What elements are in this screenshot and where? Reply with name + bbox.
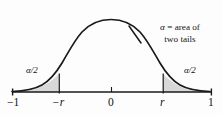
annotation-leader-line <box>129 26 141 43</box>
right-tail-label: α/2 <box>184 66 196 75</box>
axis-label-minus-one: −1 <box>7 97 19 109</box>
left-tail-label: α/2 <box>26 66 38 75</box>
area-annotation-line-2: two tails <box>142 34 218 46</box>
area-annotation-line-1: α = area of <box>142 22 218 34</box>
axis-label-zero: 0 <box>108 97 114 109</box>
axis-label-one: 1 <box>208 97 214 109</box>
area-annotation-line-1-rest: = area of <box>165 22 200 32</box>
axis-label-minus-r: −r <box>52 97 64 109</box>
distribution-figure: α = area of two tails α/2 α/2 −1 −r 0 r … <box>0 0 223 115</box>
area-annotation: α = area of two tails <box>142 22 218 46</box>
axis-label-r: r <box>160 97 164 109</box>
